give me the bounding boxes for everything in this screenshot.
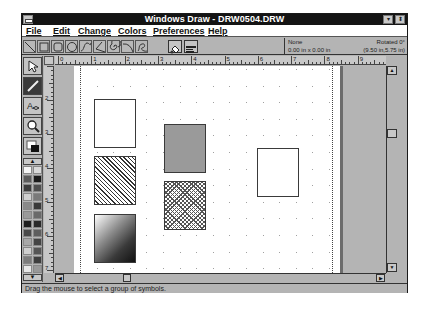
grid-dot: [246, 218, 247, 219]
menu-help[interactable]: Help: [208, 25, 228, 37]
palette-swatch[interactable]: [33, 184, 42, 192]
palette-scroll-up[interactable]: ▲: [23, 158, 42, 165]
palette-swatch[interactable]: [33, 193, 42, 201]
vertical-scrollbar[interactable]: ▲ ▼: [386, 66, 397, 273]
ruler-tick: [75, 60, 76, 64]
palette-swatch[interactable]: [23, 166, 32, 174]
line-tool-icon[interactable]: [23, 40, 36, 53]
grid-dot: [80, 252, 81, 253]
fill-bucket-button[interactable]: [168, 40, 182, 53]
horizontal-scroll-thumb[interactable]: [123, 274, 131, 282]
rectangle-tool-icon[interactable]: [37, 40, 50, 53]
menu-file[interactable]: File: [26, 25, 42, 37]
vertical-scroll-thumb[interactable]: [387, 129, 397, 138]
menu-edit[interactable]: Edit: [53, 25, 70, 37]
draw-tool-button[interactable]: [23, 77, 42, 95]
scroll-down-button[interactable]: ▼: [387, 263, 397, 272]
grid-dot: [196, 235, 197, 236]
pointer-tool-button[interactable]: [23, 57, 42, 75]
scroll-up-button[interactable]: ▲: [387, 66, 397, 75]
grid-dot: [146, 235, 147, 236]
ellipse-tool-icon[interactable]: [65, 40, 78, 53]
palette-swatch[interactable]: [33, 238, 42, 246]
freehand-tool-icon[interactable]: [135, 40, 148, 53]
grid-dot: [263, 218, 264, 219]
grid-dot: [80, 102, 81, 103]
grid-dot: [113, 268, 114, 269]
grid-dot: [229, 169, 230, 170]
scroll-left-button[interactable]: ◀: [55, 274, 64, 282]
white-rectangle-2[interactable]: [257, 148, 299, 197]
palette-swatch[interactable]: [23, 247, 32, 255]
palette-swatch[interactable]: [33, 211, 42, 219]
hatched-rectangle[interactable]: [94, 156, 136, 205]
grid-dot: [296, 102, 297, 103]
curve-tool-icon[interactable]: [79, 40, 92, 53]
palette-swatch[interactable]: [33, 202, 42, 210]
ruler-tick: [83, 62, 84, 64]
grid-dot: [80, 185, 81, 186]
text-tool-button[interactable]: A: [23, 97, 42, 115]
palette-swatch[interactable]: [23, 211, 32, 219]
horizontal-scrollbar[interactable]: ◀ ▶: [55, 273, 386, 282]
palette-swatch[interactable]: [33, 175, 42, 183]
ruler-tick: [51, 155, 53, 156]
menu-colors[interactable]: Colors: [118, 25, 147, 37]
restore-button[interactable]: ⬍: [395, 15, 405, 24]
gray-rectangle[interactable]: [164, 124, 206, 173]
ruler-tick: [383, 62, 384, 64]
ruler-tick: [120, 62, 121, 64]
palette-swatch[interactable]: [23, 265, 32, 273]
scroll-right-button[interactable]: ▶: [376, 274, 385, 282]
grid-dot: [163, 69, 164, 70]
ruler-tick: [47, 202, 53, 203]
palette-swatch[interactable]: [33, 220, 42, 228]
polygon-tool-icon[interactable]: [93, 40, 106, 53]
minimize-button[interactable]: ▾: [383, 15, 393, 24]
ruler-tick: [129, 62, 130, 64]
dotted-rectangle[interactable]: [164, 181, 206, 230]
color-fill-button[interactable]: [23, 137, 42, 155]
grid-dot: [279, 119, 280, 120]
palette-swatch[interactable]: [23, 256, 32, 264]
page[interactable]: [74, 66, 340, 273]
menu-change[interactable]: Change: [78, 25, 111, 37]
palette-swatch[interactable]: [23, 184, 32, 192]
grid-dot: [97, 268, 98, 269]
ruler-tick: [51, 79, 53, 80]
ruler-tick: [254, 62, 255, 64]
grid-dot: [312, 218, 313, 219]
palette-swatch[interactable]: [23, 229, 32, 237]
palette-swatch[interactable]: [23, 220, 32, 228]
ruler-tick: [341, 60, 342, 64]
palette-swatch[interactable]: [33, 229, 42, 237]
grid-dot: [296, 235, 297, 236]
spiral-tool-icon[interactable]: [107, 40, 120, 53]
grid-dot: [263, 268, 264, 269]
ruler-tick: [225, 56, 226, 64]
palette-swatch[interactable]: [33, 166, 42, 174]
ruler-tick: [262, 62, 263, 64]
arc-tool-icon[interactable]: [121, 40, 134, 53]
grid-dot: [246, 185, 247, 186]
ruler-tick: [95, 62, 96, 64]
rounded-rectangle-tool-icon[interactable]: [51, 40, 64, 53]
palette-swatch[interactable]: [33, 247, 42, 255]
gradient-rectangle[interactable]: [94, 214, 136, 263]
palette-swatch[interactable]: [33, 265, 42, 273]
palette-swatch[interactable]: [23, 175, 32, 183]
menu-preferences[interactable]: Preferences: [153, 25, 205, 37]
palette-swatch[interactable]: [23, 238, 32, 246]
grid-dot: [229, 202, 230, 203]
palette-swatch[interactable]: [23, 193, 32, 201]
white-rectangle-1[interactable]: [94, 99, 136, 148]
ruler-tick: [47, 236, 53, 237]
ruler-tick: [295, 62, 296, 64]
drawing-canvas[interactable]: [55, 66, 386, 273]
palette-swatch[interactable]: [23, 202, 32, 210]
text-options-button[interactable]: [184, 40, 198, 53]
palette-swatch[interactable]: [33, 256, 42, 264]
zoom-tool-button[interactable]: [23, 117, 42, 135]
palette-scroll-down[interactable]: ▼: [23, 274, 42, 281]
grid-dot: [163, 235, 164, 236]
